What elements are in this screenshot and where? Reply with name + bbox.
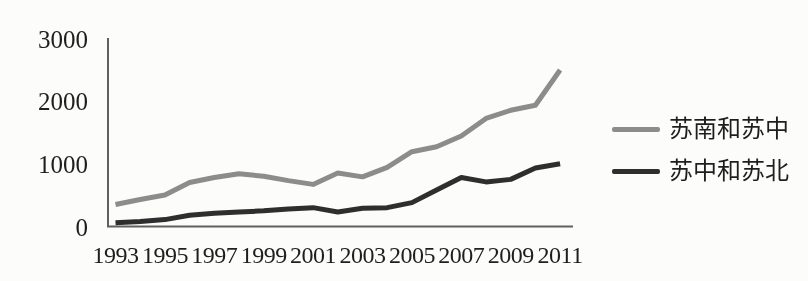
x-tick-label-1999: 1999 xyxy=(241,242,288,268)
legend-label-suzhong-subei: 苏中和苏北 xyxy=(669,157,789,185)
line-chart-figure: 0100020003000199319951997199920012003200… xyxy=(0,0,808,281)
legend-line-swatch-sunan-suzhong xyxy=(612,127,660,132)
chart-legend: 苏南和苏中 苏中和苏北 xyxy=(612,115,789,185)
x-tick-label-2011: 2011 xyxy=(538,242,583,268)
legend-item-suzhong-subei: 苏中和苏北 xyxy=(612,157,789,185)
series-line-0 xyxy=(116,70,561,204)
legend-line-swatch-suzhong-subei xyxy=(612,169,660,174)
y-tick-label-3000: 3000 xyxy=(38,26,88,53)
y-tick-label-1000: 1000 xyxy=(38,151,88,178)
x-tick-label-2005: 2005 xyxy=(389,242,436,268)
x-tick-label-2009: 2009 xyxy=(488,242,535,268)
x-tick-label-2007: 2007 xyxy=(438,242,485,268)
x-tick-label-1993: 1993 xyxy=(93,242,140,268)
x-tick-label-2001: 2001 xyxy=(290,242,336,268)
legend-item-sunan-suzhong: 苏南和苏中 xyxy=(612,115,789,143)
axis-lines xyxy=(108,38,573,227)
x-tick-label-1995: 1995 xyxy=(142,242,189,268)
x-tick-label-2003: 2003 xyxy=(340,242,387,268)
y-tick-label-0: 0 xyxy=(76,214,89,241)
legend-label-sunan-suzhong: 苏南和苏中 xyxy=(669,115,789,143)
y-tick-label-2000: 2000 xyxy=(38,88,88,115)
x-tick-label-1997: 1997 xyxy=(191,242,238,268)
